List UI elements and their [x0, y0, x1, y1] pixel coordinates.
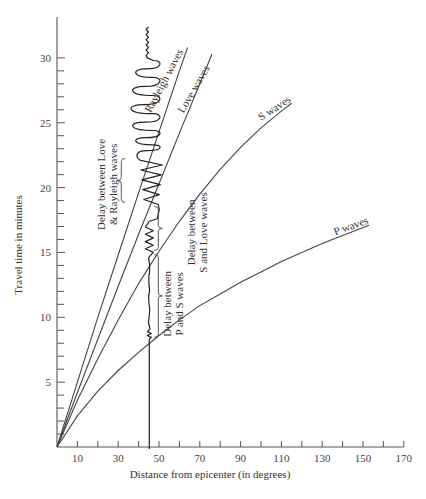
- x-tick-label: 150: [355, 452, 372, 464]
- travel-time-curves: Rayleigh wavesLove wavesS wavesP waves: [57, 47, 370, 447]
- curve-label-s-waves: S waves: [256, 93, 293, 123]
- chart-canvas: 103050709011013015017051015202530 Raylei…: [0, 0, 426, 499]
- x-tick-label: 70: [194, 452, 206, 464]
- curve-label-p-waves: P waves: [332, 214, 370, 238]
- x-tick-label: 50: [154, 452, 166, 464]
- y-tick-label: 30: [40, 52, 52, 64]
- annotation-love-rayleigh-delay-line2: & Rayleigh waves: [107, 144, 119, 225]
- travel-time-chart: 103050709011013015017051015202530 Raylei…: [0, 0, 426, 499]
- axes: 103050709011013015017051015202530: [40, 17, 413, 464]
- y-tick-label: 20: [40, 182, 52, 194]
- curve-label-love-waves: Love waves: [175, 63, 212, 115]
- y-axis-title: Travel time in minutes: [12, 195, 24, 295]
- curve-rayleigh-waves: [57, 48, 188, 448]
- y-tick-label: 5: [46, 376, 52, 388]
- x-axis-title: Distance from epicenter (in degrees): [130, 468, 291, 481]
- x-tick-label: 130: [314, 452, 331, 464]
- curve-p-waves: [57, 225, 369, 447]
- annotation-love-rayleigh-delay: Delay between Love& Rayleigh waves: [95, 139, 119, 230]
- y-tick-label: 10: [40, 311, 52, 323]
- x-tick-label: 30: [113, 452, 125, 464]
- x-tick-label: 10: [72, 452, 84, 464]
- x-tick-label: 90: [235, 452, 247, 464]
- annotation-love-rayleigh-delay-line1: Delay between Love: [95, 139, 107, 230]
- delay-brace: [154, 206, 162, 250]
- y-tick-label: 25: [40, 117, 52, 129]
- annotation-p-s-delay: Delay betweenP and S waves: [161, 271, 185, 337]
- x-tick-label: 170: [396, 452, 413, 464]
- x-tick-label: 110: [273, 452, 290, 464]
- annotation-s-love-delay-line2: S and Love waves: [197, 192, 209, 272]
- annotation-p-s-delay-line1: Delay between: [161, 271, 173, 337]
- y-tick-label: 15: [40, 246, 52, 258]
- annotation-p-s-delay-line2: P and S waves: [173, 272, 185, 335]
- annotation-s-love-delay: Delay betweenS and Love waves: [185, 192, 209, 272]
- annotation-s-love-delay-line1: Delay between: [185, 199, 197, 265]
